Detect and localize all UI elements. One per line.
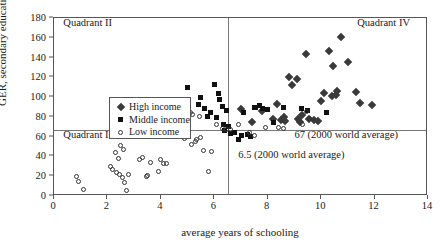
reference-annotation: 67 (2000 world average)	[294, 129, 398, 140]
y-tick-label: 140	[0, 51, 46, 62]
data-point-high	[314, 117, 322, 125]
data-point-middle	[299, 106, 304, 111]
x-tick-label: 4	[157, 200, 162, 211]
data-point-high	[273, 100, 281, 108]
data-point-high	[368, 101, 376, 109]
data-point-middle	[241, 110, 246, 115]
plot-frame: Quadrant IIQuadrant IVQuadrant I67 (2000…	[53, 17, 427, 195]
data-point-middle	[216, 91, 221, 96]
reference-annotation: 6.5 (2000 world average)	[238, 149, 344, 160]
legend-label-high: High income	[129, 101, 181, 113]
data-point-low	[247, 130, 252, 135]
data-point-middle	[324, 110, 329, 115]
y-tick-label: 180	[0, 12, 46, 23]
data-point-low	[126, 172, 131, 177]
data-point-middle	[214, 115, 219, 120]
data-point-low	[76, 179, 81, 184]
data-point-low	[113, 150, 118, 155]
x-tick-label: 8	[264, 200, 269, 211]
data-point-middle	[198, 95, 203, 100]
y-tick-label: 20	[0, 170, 46, 181]
x-tick-mark	[427, 195, 428, 199]
reference-line-vertical	[228, 18, 229, 194]
x-tick-mark	[53, 195, 54, 199]
data-point-low	[124, 188, 129, 193]
data-point-low	[206, 169, 211, 174]
x-tick-label: 12	[368, 200, 379, 211]
quadrant-label: Quadrant II	[63, 18, 112, 28]
diamond-icon	[115, 104, 126, 110]
data-point-middle	[271, 120, 276, 125]
y-tick-label: 80	[0, 110, 46, 121]
x-tick-mark	[267, 195, 268, 199]
data-point-middle	[224, 108, 229, 113]
x-tick-label: 10	[315, 200, 326, 211]
x-tick-mark	[106, 195, 107, 199]
x-tick-label: 0	[50, 200, 55, 211]
legend-item-middle: Middle income	[115, 114, 190, 127]
data-point-low	[116, 156, 121, 161]
data-point-low	[263, 125, 268, 130]
data-point-high	[329, 62, 337, 70]
data-point-low	[201, 148, 206, 153]
data-point-middle	[196, 102, 201, 107]
quadrant-label: Quadrant I	[63, 129, 108, 140]
square-icon	[115, 117, 126, 122]
quadrant-label: Quadrant IV	[357, 18, 410, 28]
legend-label-middle: Middle income	[129, 114, 190, 126]
data-point-low	[214, 122, 219, 127]
data-point-low	[145, 173, 150, 178]
data-point-high	[344, 57, 352, 65]
data-point-high	[337, 33, 345, 41]
x-axis-title: average years of schooling	[181, 226, 299, 238]
x-tick-label: 14	[422, 200, 433, 211]
data-point-low	[164, 161, 169, 166]
legend-item-low: Low income	[115, 126, 190, 139]
data-point-low	[252, 133, 257, 138]
data-point-middle	[260, 106, 265, 111]
legend-label-low: Low income	[129, 126, 179, 138]
data-point-high	[352, 88, 360, 96]
data-point-high	[325, 46, 333, 54]
data-point-low	[209, 149, 214, 154]
data-point-low	[198, 135, 203, 140]
y-tick-label: 160	[0, 31, 46, 42]
y-tick-label: 60	[0, 130, 46, 141]
data-point-low	[122, 180, 127, 185]
x-tick-label: 2	[104, 200, 109, 211]
data-point-high	[281, 117, 289, 125]
circle-icon	[115, 130, 126, 135]
data-point-middle	[202, 106, 207, 111]
data-point-high	[302, 49, 310, 57]
data-point-low	[121, 147, 126, 152]
data-point-high	[247, 118, 255, 126]
data-point-low	[190, 112, 195, 117]
data-point-high	[317, 97, 325, 105]
data-point-middle	[232, 130, 237, 135]
legend-item-high: High income	[115, 101, 190, 114]
data-point-middle	[281, 105, 286, 110]
data-point-low	[81, 187, 86, 192]
data-point-high	[356, 99, 364, 107]
data-point-middle	[239, 133, 244, 138]
data-point-middle	[265, 107, 270, 112]
y-tick-label: 40	[0, 150, 46, 161]
x-tick-mark	[160, 195, 161, 199]
data-point-low	[236, 122, 241, 127]
data-point-low	[156, 169, 161, 174]
x-tick-mark	[213, 195, 214, 199]
data-point-low	[140, 155, 145, 160]
data-point-middle	[185, 85, 190, 90]
data-point-low	[148, 160, 153, 165]
y-tick-label: 100	[0, 91, 46, 102]
data-point-low	[197, 114, 202, 119]
data-point-low	[300, 122, 305, 127]
x-tick-mark	[320, 195, 321, 199]
scatter-chart: GER, secondary education average years o…	[0, 0, 441, 246]
data-point-middle	[217, 97, 222, 102]
x-tick-label: 6	[211, 200, 216, 211]
data-point-low	[120, 175, 125, 180]
data-point-low	[74, 174, 79, 179]
y-tick-label: 120	[0, 71, 46, 82]
x-tick-mark	[374, 195, 375, 199]
